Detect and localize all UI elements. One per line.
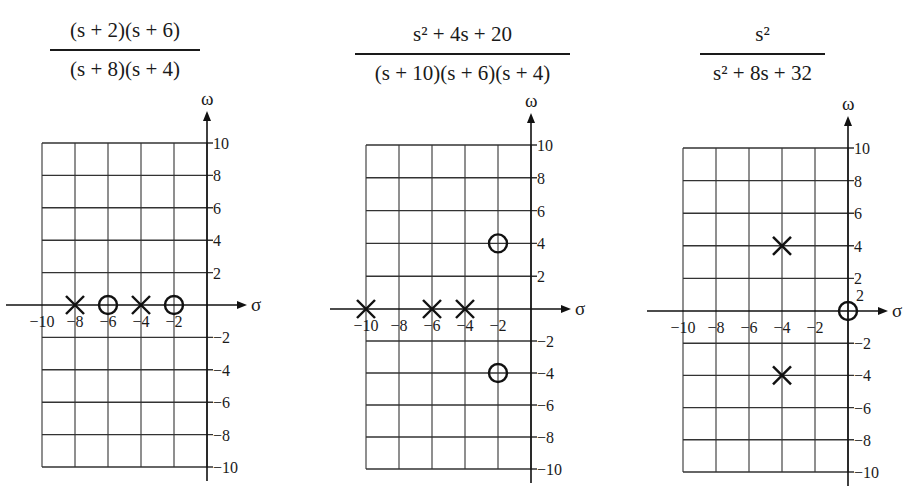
pole-zero-plot-3: σω108642−2−4−6−8−10−10−8−6−4−22 [0,0,915,498]
y-tick-label: −2 [854,335,871,352]
y-tick-label: 6 [854,205,862,222]
x-tick-label: −2 [806,319,823,336]
y-tick-label: −4 [854,367,871,384]
y-tick-label: −10 [854,464,879,481]
x-tick-label: −6 [740,319,757,336]
x-tick-label: −8 [707,319,724,336]
y-tick-label: 8 [854,173,862,190]
omega-axis-label: ω [842,93,855,114]
x-tick-label: −4 [773,319,790,336]
y-tick-label: 10 [854,140,870,157]
sigma-axis-arrow-icon [878,307,888,315]
x-tick-label: −10 [670,319,695,336]
y-tick-label: 2 [854,270,862,287]
zero-multiplicity-label: 2 [856,287,864,304]
y-tick-label: 4 [854,238,862,255]
y-tick-label: −6 [854,400,871,417]
omega-axis-arrow-icon [844,116,852,126]
y-tick-label: −8 [854,432,871,449]
sigma-axis-label: σ [892,300,902,321]
